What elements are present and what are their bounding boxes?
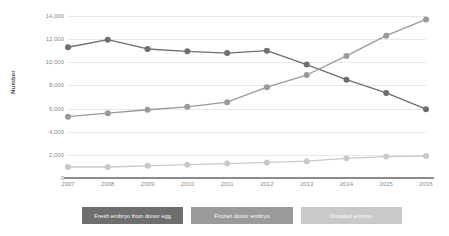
gridline bbox=[68, 85, 426, 86]
gridline bbox=[68, 155, 426, 156]
gridline bbox=[68, 132, 426, 133]
legend-item-label: Fresh embryo from donor egg bbox=[94, 213, 171, 219]
gridline bbox=[68, 16, 426, 17]
x-tick-label: 2013 bbox=[300, 181, 313, 187]
gridline bbox=[68, 39, 426, 40]
x-tick-label: 2011 bbox=[221, 181, 234, 187]
x-tick-label: 2008 bbox=[101, 181, 114, 187]
y-axis-tick-labels: 02,0004,0006,0008,00010,00012,00014,000 bbox=[20, 16, 64, 178]
x-tick-label: 2015 bbox=[380, 181, 393, 187]
y-axis-title: Number bbox=[10, 80, 16, 94]
y-tick-label: 12,000 bbox=[20, 36, 64, 42]
x-tick-label: 2010 bbox=[181, 181, 194, 187]
y-tick-label: 8,000 bbox=[20, 82, 64, 88]
y-tick-label: 4,000 bbox=[20, 129, 64, 135]
legend-item-label: Frozen donor embryo bbox=[214, 213, 269, 219]
y-tick-label: 10,000 bbox=[20, 59, 64, 65]
legend: Fresh embryo from donor eggFrozen donor … bbox=[82, 207, 402, 224]
x-axis-line bbox=[64, 177, 434, 179]
legend-item-label: Donated embryo bbox=[330, 213, 373, 219]
gridline bbox=[68, 62, 426, 63]
y-tick-label: 6,000 bbox=[20, 106, 64, 112]
y-tick-label: 0 bbox=[20, 175, 64, 181]
x-tick-label: 2009 bbox=[141, 181, 154, 187]
x-tick-label: 2016 bbox=[419, 181, 432, 187]
x-axis-tick-labels: 2007200820092010201120122013201420152016 bbox=[68, 181, 426, 195]
legend-item[interactable]: Frozen donor embryo bbox=[191, 207, 292, 224]
x-tick-label: 2007 bbox=[61, 181, 74, 187]
legend-item[interactable]: Donated embryo bbox=[301, 207, 402, 224]
gridline bbox=[68, 109, 426, 110]
y-tick-label: 2,000 bbox=[20, 152, 64, 158]
x-tick-label: 2014 bbox=[340, 181, 353, 187]
line-chart: Number 02,0004,0006,0008,00010,00012,000… bbox=[0, 0, 449, 236]
plot-area bbox=[68, 16, 426, 178]
y-tick-label: 14,000 bbox=[20, 13, 64, 19]
legend-item[interactable]: Fresh embryo from donor egg bbox=[82, 207, 183, 224]
x-tick-label: 2012 bbox=[260, 181, 273, 187]
